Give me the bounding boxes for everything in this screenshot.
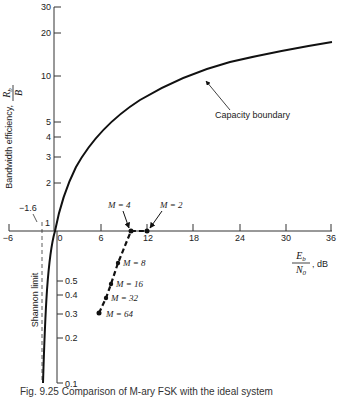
x-tick-24: 24 xyxy=(235,233,245,243)
svg-text:N0: N0 xyxy=(295,264,307,277)
y-tick-10: 10 xyxy=(41,71,51,81)
y-tick-5: 5 xyxy=(46,117,51,127)
y-tick-3: 3 xyxy=(46,152,51,162)
label-m4: M = 4 xyxy=(107,200,131,210)
y-tick-0.3: 0.3 xyxy=(65,309,78,319)
point-m32 xyxy=(104,296,108,300)
label-m2: M = 2 xyxy=(159,200,183,210)
point-m8 xyxy=(116,261,120,265)
y-axis-label-num: R xyxy=(1,92,12,99)
x-tick-neg6: −6 xyxy=(3,233,13,243)
shannon-limit-label: Shannon limit xyxy=(30,272,40,327)
label-m8: M = 8 xyxy=(122,258,146,268)
y-tick-labels-upper: 30 20 10 5 4 3 2 1 xyxy=(41,2,51,228)
shannon-value-leader xyxy=(33,214,37,222)
point-m64 xyxy=(97,311,102,316)
x-axis xyxy=(9,224,332,231)
y-axis-label-den: B xyxy=(13,90,24,96)
y-tick-20: 20 xyxy=(41,28,51,38)
y-tick-0.2: 0.2 xyxy=(65,333,78,343)
y-tick-0.5: 0.5 xyxy=(65,276,78,286)
svg-text:Bandwidth efficiency,: Bandwidth efficiency, xyxy=(4,105,14,189)
label-m64: M = 64 xyxy=(105,309,134,319)
label-m32: M = 32 xyxy=(110,293,139,303)
x-axis-label-num: E xyxy=(295,250,302,261)
x-axis-label-unit: , dB xyxy=(312,259,328,269)
svg-text:Eb: Eb xyxy=(295,250,306,263)
x-tick-18: 18 xyxy=(189,233,199,243)
shannon-value-label: −1.6 xyxy=(19,203,37,213)
y-axis-label-text: Bandwidth efficiency, xyxy=(4,105,14,189)
capacity-boundary-curve xyxy=(43,42,332,383)
arrow-m4 xyxy=(123,211,129,228)
y-tick-2: 2 xyxy=(46,178,51,188)
x-tick-30: 30 xyxy=(281,233,291,243)
y-tick-4: 4 xyxy=(46,132,51,142)
x-axis-label: Eb N0 , dB xyxy=(292,250,328,277)
y-tick-30: 30 xyxy=(41,2,51,12)
point-m4 xyxy=(129,229,134,234)
label-m16: M = 16 xyxy=(115,279,144,289)
x-tick-36: 36 xyxy=(326,233,336,243)
arrow-m2 xyxy=(150,211,162,228)
x-tick-12: 12 xyxy=(143,233,153,243)
y-axis-label: Bandwidth efficiency, Rb B xyxy=(1,85,24,189)
y-axis-upper xyxy=(54,7,61,231)
x-tick-6: 6 xyxy=(98,233,103,243)
y-tick-labels-lower: 0.5 0.4 0.3 0.2 0.1 xyxy=(65,276,78,389)
y-tick-0.4: 0.4 xyxy=(65,290,78,300)
x-tick-0: 0 xyxy=(57,233,62,243)
y-tick-1: 1 xyxy=(45,218,50,228)
x-axis-label-den-sub: 0 xyxy=(303,269,307,277)
capacity-boundary-arrow xyxy=(206,81,230,110)
point-m2 xyxy=(145,229,150,234)
figure-caption: Fig. 9.25 Comparison of M-ary FSK with t… xyxy=(20,386,273,397)
capacity-boundary-label: Capacity boundary xyxy=(215,110,291,120)
point-m16 xyxy=(109,282,113,286)
x-axis-label-num-sub: b xyxy=(302,255,306,263)
y-axis-lower xyxy=(57,231,63,383)
